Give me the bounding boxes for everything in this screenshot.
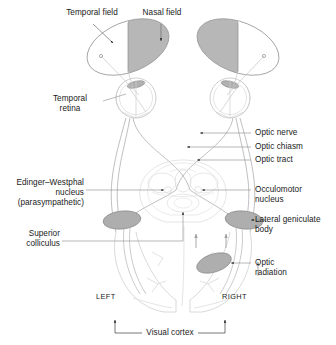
visual-pathway-figure: Temporal field Nasal field Temporal reti… [0, 0, 336, 345]
label-optic-chiasm: Optic chiasm [255, 142, 303, 152]
label-optic-tract: Optic tract [255, 155, 293, 165]
label-temporal-retina: Temporal retina [38, 94, 102, 114]
eye-left [116, 78, 156, 118]
label-nasal-field: Nasal field [126, 8, 198, 18]
visual-field-left [79, 8, 198, 90]
pathway-illustration [0, 0, 336, 345]
label-left-hemisphere: LEFT [96, 292, 116, 302]
aqueduct-region [175, 170, 191, 192]
eye-right [210, 78, 250, 118]
midbrain-inner [148, 163, 219, 215]
label-edinger-westphal-nucleus: Edinger–Westphal nucleus (parasympatheti… [2, 178, 84, 209]
label-optic-nerve: Optic nerve [255, 128, 297, 138]
occipital-detail-left [133, 298, 172, 308]
tract-to-lgb-right [190, 190, 228, 214]
sulcus-left-upper [152, 252, 163, 266]
fibre-right-crossing [176, 118, 233, 190]
label-visual-cortex: Visual cortex [140, 328, 200, 338]
colliculus-core [174, 198, 192, 208]
visual-field-right [168, 8, 287, 90]
label-lateral-geniculate-body: Lateral geniculate body [255, 215, 321, 235]
midbrain-detail-1 [170, 169, 196, 172]
optic-radiation-body [194, 249, 234, 277]
leader-temporal-field [93, 24, 113, 43]
label-right-hemisphere: RIGHT [222, 292, 247, 302]
label-optic-radiation: Optic radiation [255, 258, 287, 278]
label-occulomotor-nucleus: Occulomotor nucleus [255, 185, 302, 205]
calcarine-sulcus-right [200, 278, 219, 292]
label-superior-colliculus: Superior colliculus [2, 229, 60, 249]
fibre-left-crossing [133, 118, 190, 190]
calcarine-sulcus-left [147, 278, 166, 292]
